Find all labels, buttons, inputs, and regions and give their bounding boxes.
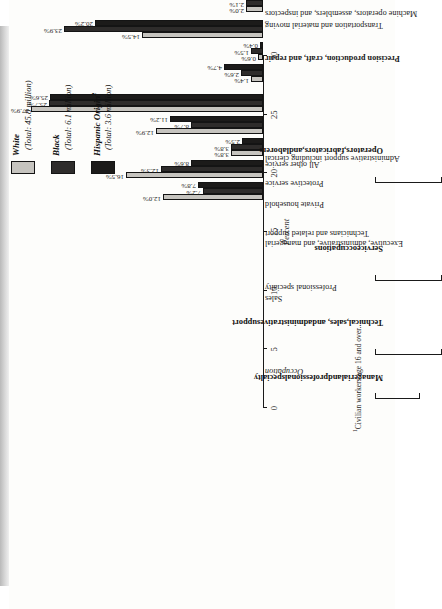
axis-tick-label: 5 [269,347,279,351]
category-label: Professional specialty [265,283,337,292]
plot-area: 12.0%7.2%7.8%16.5%12.3%8.6%3.8%3.8%2.5%1… [13,56,263,408]
category-label: Technicians and related support [265,229,369,238]
axis-tick [263,172,267,173]
category-label: All other service [265,160,320,169]
bar [251,76,263,82]
bar-value-label: 14.5% [122,33,140,41]
legend-series-name: Hispanic Origin2 [91,93,102,156]
axis-tick-label: 20 [269,169,279,178]
bar-value-label: 23.9% [44,27,62,35]
legend-series-name: Black [51,135,61,157]
group-bracket [375,275,442,281]
bar [224,64,263,70]
bar [170,116,263,122]
category-label: Protective service [265,179,323,188]
bar-value-label: 8.6% [175,161,190,169]
bar [163,194,263,200]
bar-value-label: 11.2% [150,117,168,125]
bar [64,26,263,32]
bar-value-label: 12.9% [135,129,153,137]
group-label: Operators,fabricators,andlaborers [259,146,383,155]
group-bracket [375,349,442,355]
bar-value-label: 4.7% [207,65,222,73]
bar [49,100,263,106]
axis-tick [263,114,267,115]
bar-chart: 12.0%7.2%7.8%16.5%12.3%8.6%3.8%3.8%2.5%1… [5,4,391,604]
footnote: 1Civilian workers age 16 and over. [352,327,363,432]
bar [260,42,263,48]
bar [246,6,263,12]
bar-value-label: 0.4% [243,43,258,51]
category-label: Private household [265,200,324,209]
legend-series-name: White [11,134,21,156]
bar-value-label: 12.3% [140,167,158,175]
hispanic-swatch [91,161,115,174]
axis-tick [263,348,267,349]
axis-tick-label: 25 [269,110,279,119]
bar [246,0,264,6]
legend-series-total: (Total: 45.8 million) [23,80,33,150]
black-swatch [51,161,75,174]
bar-value-label: 12.0% [143,195,161,203]
bar [241,70,263,76]
bar [191,160,263,166]
category-label: Transportation and material moving [265,21,383,30]
bar-value-label: 16.5% [105,173,123,181]
group-label: Managerialandprofessionalspecialty [254,373,383,382]
group-label: Technical,sales, andadministrativesuppor… [232,318,383,327]
group-bracket [375,177,442,183]
bar-value-label: 2.6% [225,71,240,79]
category-label: Sales [265,294,282,303]
footnote-marker: 1 [352,429,358,432]
bar [50,94,263,100]
bar-value-label: 8.7% [174,123,189,131]
group-bracket [375,393,420,399]
legend-series-total: (Total: 3.6 million) [103,85,113,150]
footnote-text: Civilian workers age 16 and over. [354,327,363,430]
axis-tick [263,407,267,408]
bar [203,188,263,194]
bar [156,128,264,134]
bar [95,20,263,26]
white-swatch [11,161,35,174]
group-label: Serviceoccupations [315,244,383,253]
bar-value-label: 2.5% [226,139,241,147]
bar [142,32,263,38]
bar-value-label: 20.2% [75,21,93,29]
legend-series-total: (Total: 6.1 million) [63,85,73,150]
category-label: Machine operators, assemblers, and inspe… [265,9,417,18]
bar [198,182,263,188]
bar-value-label: 7.8% [181,183,196,191]
category-label: Precision production, craft, and repair [265,54,400,63]
bar [242,138,263,144]
bar [191,122,264,128]
axis-tick-label: 0 [269,406,279,410]
